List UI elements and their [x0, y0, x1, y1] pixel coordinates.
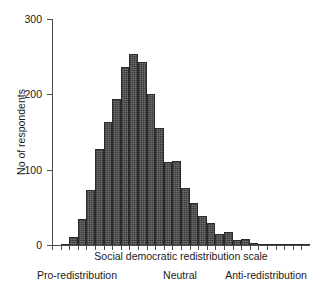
histogram-bar — [224, 232, 233, 245]
histogram-bar — [172, 161, 181, 245]
histogram-bar — [284, 244, 293, 245]
histogram-bar — [95, 149, 104, 245]
histogram-bar — [61, 244, 70, 246]
y-axis-title: No of respondents — [14, 19, 28, 245]
y-tick-label-0: 0 — [2, 240, 42, 250]
histogram-bar — [147, 94, 156, 245]
histogram-bar — [112, 99, 121, 245]
histogram-bar — [198, 216, 207, 245]
x-axis-title: Social democratic redistribution scale — [52, 250, 310, 263]
histogram-bar — [215, 234, 224, 245]
histogram-bar — [164, 162, 173, 245]
anchor-label-anti-redistribution: Anti-redistribution — [214, 268, 318, 282]
plot-area — [52, 19, 310, 245]
anchor-label-neutral: Neutral — [148, 268, 212, 282]
histogram-bar — [129, 54, 138, 245]
histogram-bar — [258, 244, 267, 246]
histogram-bar — [181, 188, 190, 245]
x-axis-anchor-labels: Pro-redistribution Neutral Anti-redistri… — [22, 268, 307, 282]
y-tick-label-300: 300 — [2, 14, 42, 24]
histogram-bar — [121, 67, 130, 245]
histogram-bar — [267, 244, 276, 246]
y-tick-label-200: 200 — [2, 89, 42, 99]
y-tick-label-100: 100 — [2, 165, 42, 175]
histogram-bar — [86, 190, 95, 245]
histogram-bar — [250, 243, 259, 245]
histogram-bar — [276, 244, 285, 246]
histogram-bar — [233, 240, 242, 245]
histogram-bar — [155, 128, 164, 245]
histogram-bar — [241, 239, 250, 245]
histogram-bar — [78, 219, 87, 245]
anchor-label-pro-redistribution: Pro-redistribution — [22, 268, 132, 282]
histogram-bar — [104, 122, 113, 245]
histogram-bar — [301, 244, 310, 245]
histogram-bar — [190, 203, 199, 245]
histogram-bar — [69, 237, 78, 245]
histogram-figure: No of respondents 0100200300 Social demo… — [0, 0, 321, 296]
histogram-bar — [138, 62, 147, 245]
histogram-bar — [207, 223, 216, 245]
histogram-bar — [293, 244, 302, 245]
